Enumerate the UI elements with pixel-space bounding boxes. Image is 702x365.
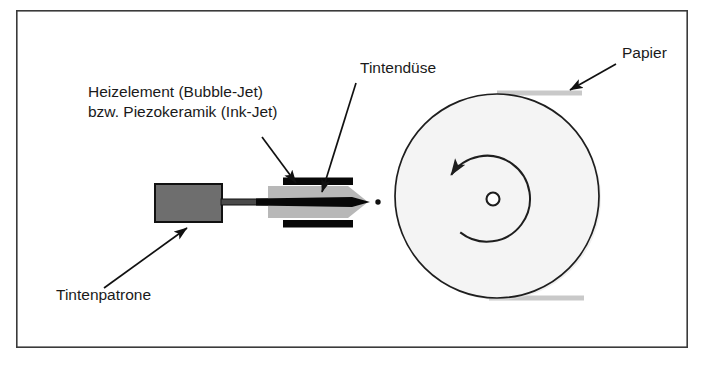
heizelement-label-line-1: Heizelement (Bubble-Jet)	[88, 83, 263, 100]
heating-element-bottom	[283, 220, 353, 228]
papier-label-line-1: Papier	[622, 44, 667, 61]
ink-cartridge-body	[155, 184, 222, 222]
nozzle-center-channel	[256, 197, 370, 207]
heizelement-label-line-2: bzw. Piezokeramik (Ink-Jet)	[88, 103, 278, 120]
tintenpatrone-label-line-1: Tintenpatrone	[56, 286, 151, 303]
tintenduese-label: Tintendüse	[360, 59, 466, 76]
paper-drum-group	[395, 94, 601, 300]
papier-label: Papier	[622, 44, 697, 61]
diagram-svg: Heizelement (Bubble-Jet) bzw. Piezokeram…	[0, 0, 702, 365]
drum-axle-hole	[487, 193, 500, 206]
tintenpatrone-label: Tintenpatrone	[56, 286, 181, 303]
ink-droplet	[375, 199, 380, 204]
diagram-canvas: Heizelement (Bubble-Jet) bzw. Piezokeram…	[0, 0, 702, 365]
tintenduese-label-line-1: Tintendüse	[360, 59, 436, 76]
